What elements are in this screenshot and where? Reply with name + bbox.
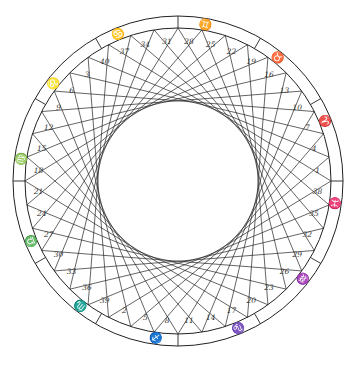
chord-line <box>42 91 302 111</box>
point-number-label: 24 <box>36 209 47 218</box>
point-number-label: 40 <box>99 57 110 66</box>
aquarius-sign-icon: ♒ <box>293 269 312 288</box>
sign-divider-tick <box>311 258 321 264</box>
point-number-label: 26 <box>279 267 290 276</box>
point-number-label: 34 <box>141 40 151 49</box>
point-number-label: 38 <box>313 187 323 196</box>
chord-lines <box>25 28 331 334</box>
chord-line <box>131 35 329 204</box>
point-number-label: 25 <box>205 40 216 49</box>
chord-line <box>154 134 323 332</box>
chord-line <box>247 45 267 305</box>
point-number-label: 33 <box>67 267 77 276</box>
point-number-label: 1 <box>315 166 320 175</box>
pisces-sign-icon: ♓ <box>328 195 343 211</box>
point-number-label: 37 <box>120 47 130 56</box>
point-number-label: 13 <box>280 86 290 95</box>
point-number-label: 28 <box>183 37 194 46</box>
point-number-label: 14 <box>206 313 216 322</box>
point-number-label: 20 <box>245 296 256 305</box>
point-number-label: 21 <box>33 187 44 196</box>
point-number-label: 27 <box>43 230 54 239</box>
point-number-label: 31 <box>162 37 172 46</box>
chord-line <box>42 112 178 334</box>
point-number-label: 32 <box>303 230 313 239</box>
chord-line <box>247 57 267 317</box>
chord-line <box>32 134 201 332</box>
sign-divider-tick <box>96 38 102 48</box>
chord-line <box>42 250 302 270</box>
gemini-sign-icon: ♊ <box>198 17 214 32</box>
zodiac-chord-diagram: 1471013161922252831343740369121518212427… <box>0 0 353 367</box>
point-number-label: 16 <box>264 70 274 79</box>
inner-ring-circle <box>25 28 331 334</box>
chord-line <box>32 73 286 134</box>
chord-line <box>42 28 178 250</box>
point-number-label: 8 <box>165 316 170 325</box>
sign-divider-tick <box>35 99 45 105</box>
point-number-label: 36 <box>82 283 92 292</box>
zodiac-ring <box>13 16 343 346</box>
sign-divider-tick <box>96 314 102 324</box>
leo-sign-icon: ♌ <box>44 74 63 93</box>
point-number-label: 11 <box>184 316 194 325</box>
point-number-label: 39 <box>100 296 110 305</box>
point-number-label: 18 <box>34 166 44 175</box>
chord-line <box>70 228 324 289</box>
chord-line <box>32 30 201 228</box>
chord-line <box>27 157 225 326</box>
point-number-label: 17 <box>227 306 237 315</box>
sign-dividers <box>13 16 343 346</box>
point-number-label: 5 <box>143 313 148 322</box>
chord-line <box>88 45 108 305</box>
sagittarius-sign-icon: ♐ <box>148 331 164 346</box>
sign-divider-tick <box>35 258 45 264</box>
chord-line <box>27 35 225 204</box>
point-number-label: 9 <box>56 103 61 112</box>
chord-line <box>25 45 247 181</box>
chord-line <box>70 73 131 327</box>
virgo-sign-icon: ♍ <box>14 151 29 167</box>
chord-line <box>70 73 324 134</box>
point-number-label: 22 <box>226 47 237 56</box>
chord-line <box>54 91 314 111</box>
scorpio-sign-icon: ♏ <box>71 296 90 315</box>
point-number-label: 7 <box>305 123 310 132</box>
point-number-label: 19 <box>246 57 256 66</box>
point-number-label: 12 <box>44 123 54 132</box>
zodiac-sign-glyphs: ♋♊♉♈♓♒♑♐♏♎♍♌ <box>14 17 343 345</box>
cancer-sign-icon: ♋ <box>110 25 128 42</box>
number-labels: 1471013161922252831343740369121518212427… <box>33 37 323 325</box>
outer-ring-circle <box>13 16 343 346</box>
wheel-svg: 1471013161922252831343740369121518212427… <box>0 0 353 367</box>
point-number-label: 2 <box>121 306 127 315</box>
point-number-label: 3 <box>85 70 90 79</box>
capricorn-sign-icon: ♑ <box>228 319 246 336</box>
sign-divider-tick <box>255 38 261 48</box>
point-number-label: 15 <box>37 144 47 153</box>
point-number-label: 10 <box>293 103 303 112</box>
point-number-label: 35 <box>309 209 319 218</box>
chord-line <box>70 35 131 289</box>
chord-line <box>27 57 268 157</box>
point-number-label: 30 <box>54 250 64 259</box>
chord-line <box>109 45 331 181</box>
chord-line <box>131 157 329 326</box>
sign-divider-tick <box>255 314 261 324</box>
point-number-label: 23 <box>263 283 274 292</box>
sign-divider-tick <box>311 99 321 105</box>
chord-line <box>225 73 286 327</box>
chord-line <box>225 35 286 289</box>
taurus-sign-icon: ♉ <box>268 48 287 67</box>
chord-line <box>88 57 108 317</box>
libra-sign-icon: ♎ <box>22 231 39 249</box>
chord-line <box>54 250 314 270</box>
aries-sign-icon: ♈ <box>316 113 333 131</box>
point-number-label: 4 <box>311 144 317 153</box>
chord-line <box>32 228 286 289</box>
point-number-label: 29 <box>292 250 303 259</box>
point-number-label: 6 <box>69 86 74 95</box>
chord-line <box>154 30 323 228</box>
